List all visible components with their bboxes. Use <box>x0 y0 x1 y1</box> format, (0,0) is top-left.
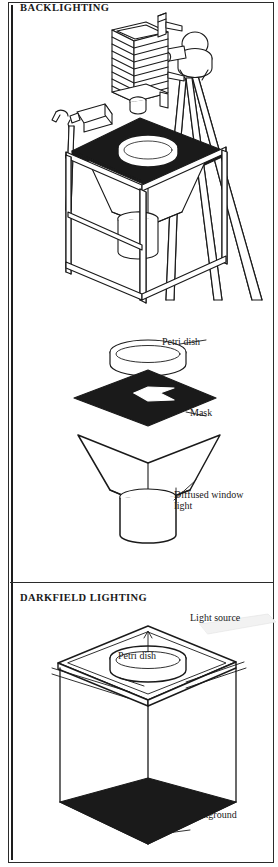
label-petri-dish-darkfield: Petri dish <box>118 650 156 661</box>
label-mask: Mask <box>190 407 212 418</box>
label-petri-dish-exploded: Petri dish <box>162 336 200 347</box>
label-dark-background: Dark background <box>167 809 237 820</box>
bellows-camera <box>112 13 184 114</box>
figure-page: BACKLIGHTING <box>0 0 278 867</box>
label-light-source: Light source <box>190 612 240 623</box>
backlighting-illustration <box>0 0 278 320</box>
exploded-view-illustration <box>0 330 278 580</box>
petri-dish-on-table <box>118 135 178 167</box>
darkfield-illustration <box>0 596 278 867</box>
label-diffused-window-light: Diffused window light <box>174 489 274 511</box>
section-divider <box>10 582 274 583</box>
